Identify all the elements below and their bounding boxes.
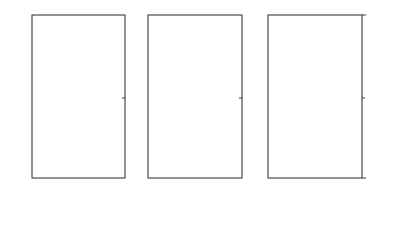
panel-3-frame [268, 15, 362, 178]
panel-2-frame [148, 15, 242, 178]
panel-3 [268, 15, 366, 178]
panel-1-frame [32, 15, 125, 178]
figure [0, 0, 399, 225]
panel-1 [32, 15, 125, 178]
panel-2 [148, 15, 242, 178]
